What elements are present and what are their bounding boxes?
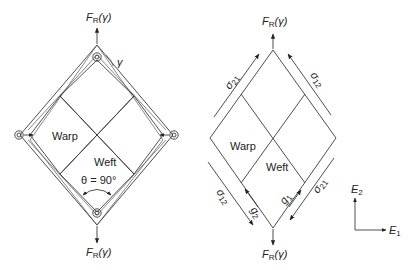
gamma-label: γ — [117, 56, 124, 68]
right-shear-diagram: FR(γ) σ21 σ12 Warp Weft σ12 σ21 g2 g1 FR… — [208, 15, 336, 262]
pin-left-icon — [15, 131, 23, 139]
sigma12-lower-label: σ12 — [213, 186, 234, 207]
g1-label: g1 — [277, 190, 295, 207]
sigma12-upper-label: σ12 — [307, 69, 328, 90]
e1-label: E1 — [389, 224, 401, 238]
coordinate-axes: E2 E1 — [351, 183, 401, 238]
right-top-force-label: FR(γ) — [262, 15, 288, 29]
warp-label-right: Warp — [230, 140, 256, 152]
theta-arc-icon — [83, 190, 111, 196]
left-picture-frame: FR(γ) γ Warp Weft θ = 90° FR(γ) — [15, 11, 178, 260]
inner-bar-ur — [97, 55, 166, 130]
sigma21-upper-label: σ21 — [222, 71, 243, 92]
left-bottom-force-label: FR(γ) — [86, 246, 112, 260]
deformed-frame-right — [97, 45, 163, 225]
weft-label-left: Weft — [94, 156, 116, 168]
inner-bar-ul — [28, 55, 97, 130]
angle-label: θ = 90° — [81, 174, 116, 186]
weft-label-right: Weft — [266, 161, 288, 173]
left-top-force-label: FR(γ) — [86, 11, 112, 25]
pin-bottom-icon — [93, 209, 101, 217]
pin-right-icon — [170, 131, 178, 139]
shear-frame-diagram: FR(γ) γ Warp Weft θ = 90° FR(γ) FR(γ) σ2… — [0, 0, 410, 270]
fabric-cell-top — [60, 60, 134, 135]
e2-label: E2 — [351, 183, 363, 197]
right-bottom-force-label: FR(γ) — [262, 248, 288, 262]
sigma12-upper-arrow-icon — [288, 54, 331, 115]
warp-label-left: Warp — [52, 130, 78, 142]
g2-arrow-icon — [245, 189, 258, 207]
